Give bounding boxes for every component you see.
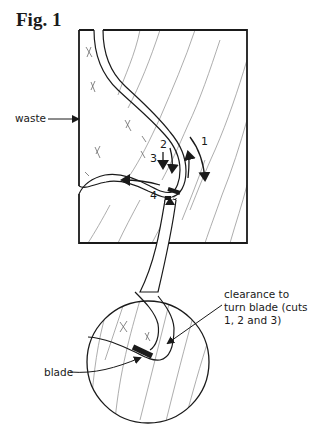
cut-1-return-arrow: [188, 152, 189, 178]
cut-number-4: 4: [150, 189, 157, 202]
magnified-detail: [87, 292, 210, 425]
clearance-pointer-arrow: [168, 305, 222, 343]
label-clearance-line3: 1, 2 and 3): [224, 314, 308, 327]
blade-pointer-arrow: [70, 358, 140, 372]
label-blade: blade: [44, 366, 73, 379]
waste-marks: [85, 47, 146, 176]
cut-number-3: 3: [150, 152, 157, 165]
blade-magnified: [133, 347, 152, 356]
cut-number-2: 2: [160, 138, 167, 151]
cut-number-1: 1: [201, 135, 208, 148]
label-clearance: clearance to turn blade (cuts 1, 2 and 3…: [224, 288, 308, 327]
magnify-callout: [140, 196, 177, 292]
cut-2-arrow: [170, 148, 172, 172]
saw-kerf: [79, 30, 186, 197]
label-waste: waste: [15, 112, 46, 125]
label-clearance-line2: turn blade (cuts: [224, 301, 308, 314]
label-clearance-line1: clearance to: [224, 288, 308, 301]
